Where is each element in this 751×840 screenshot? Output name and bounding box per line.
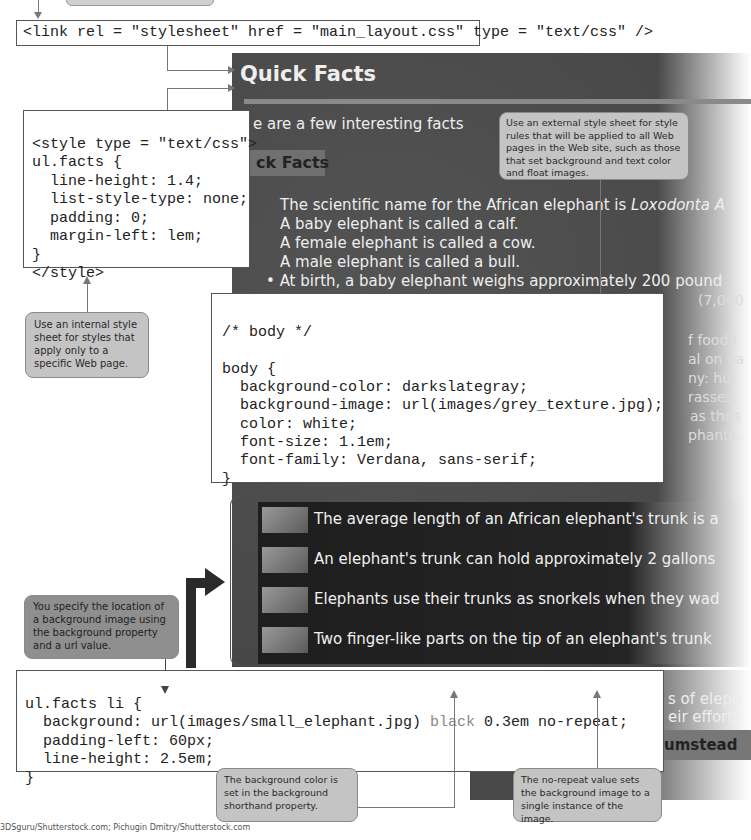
bold-arrow-head (205, 568, 225, 596)
arrow-head-down (34, 12, 42, 19)
partial-text: as thos (690, 408, 741, 424)
code-line: background: url(images/small_elephant.jp… (25, 714, 663, 733)
fact-item: Elephants use their trunks as snorkels w… (262, 586, 751, 614)
code-line: ul.facts li { (25, 696, 663, 715)
fact-text: Two finger-like parts on the tip of an e… (314, 630, 712, 648)
internal-style-code-box: <style type = "text/css">ul.facts { line… (23, 110, 250, 268)
connector-line (454, 695, 455, 807)
brace-icon (230, 497, 239, 665)
arrow-head-right (228, 84, 235, 92)
arrow-head-up (593, 690, 601, 698)
connector-line (167, 70, 233, 71)
bold-arrow-stem (186, 578, 196, 668)
code-line: padding-left: 60px; (25, 733, 663, 752)
link-code-box: <link rel = "stylesheet" href = "main_la… (16, 20, 480, 46)
code-line: <style type = "text/css"> (32, 136, 249, 155)
partial-text: eir efforts (668, 708, 741, 726)
partial-text: phants. (688, 427, 740, 443)
connector-line (597, 695, 598, 770)
code-segment-black: black (430, 714, 475, 731)
bullet-1: The scientific name for the African elep… (280, 196, 725, 214)
code-line: color: white; (222, 416, 663, 434)
code-segment: 0.3em no-repeat; (475, 714, 628, 731)
connector-line (167, 46, 168, 70)
connector-line (87, 280, 88, 312)
bullet-4: A male elephant is called a bull. (280, 253, 520, 271)
code-line: line-height: 2.5em; (25, 751, 663, 770)
body-css-code-box: /* body */​body { background-color: dark… (211, 293, 664, 483)
code-line: background-color: darkslategray; (222, 379, 663, 397)
code-line: body { (222, 361, 663, 379)
intro-text: e are a few interesting facts (253, 115, 463, 133)
fact-text: Elephants use their trunks as snorkels w… (314, 590, 720, 608)
fact-text: The average length of an African elephan… (314, 510, 719, 528)
partial-text: s of eleph (668, 690, 741, 708)
code-line: margin-left: lem; (32, 228, 249, 247)
arrow-head-up (83, 276, 91, 284)
li-css-code-box: ul.facts li { background: url(images/sma… (16, 670, 664, 772)
partial-text: umstead (664, 736, 737, 754)
elephant-icon (262, 547, 308, 573)
callout-background-location: You specify the location of a background… (24, 595, 179, 659)
partial-text: (7,000 (698, 292, 744, 308)
scientific-name: Loxodonta A (631, 196, 725, 214)
code-line-blank: ​ (222, 343, 663, 361)
elephant-icon (262, 627, 308, 653)
elephant-icon (262, 587, 308, 613)
elephant-icon (262, 507, 308, 533)
partial-text: al on ea (688, 351, 744, 367)
code-segment: background: url(images/small_elephant.jp… (25, 714, 430, 731)
callout-external-style-sheet: Use an external style sheet for style ru… (499, 112, 689, 180)
image-credit: 3DSguru/Shutterstock.com; Pichugin Dmitr… (0, 823, 250, 832)
top-callout-remnant (66, 0, 214, 6)
code-line: list-style-type: none; (32, 191, 249, 210)
fact-item: The average length of an African elephan… (262, 506, 751, 534)
page-title: Quick Facts (240, 62, 376, 86)
code-line: } (32, 247, 249, 266)
arrow-head-down (161, 686, 169, 694)
partial-text: rasses, (688, 389, 737, 405)
title-rule (244, 99, 751, 104)
code-line: font-size: 1.1em; (222, 434, 663, 452)
fact-item: An elephant's trunk can hold approximate… (262, 546, 751, 574)
bullet-text: At birth, a baby elephant weighs approxi… (280, 272, 723, 290)
arrow-head-up (450, 690, 458, 698)
bullet-2: A baby elephant is called a calf. (280, 215, 518, 233)
bullet-5: • At birth, a baby elephant weighs appro… (266, 272, 722, 290)
code-line: ul.facts { (32, 154, 249, 173)
code-line: /* body */ (222, 324, 663, 342)
fact-text: An elephant's trunk can hold approximate… (314, 550, 715, 568)
callout-internal-style-sheet: Use an internal style sheet for styles t… (25, 312, 149, 378)
bullet-3: A female elephant is called a cow. (280, 234, 536, 252)
code-line: font-family: Verdana, sans-serif; (222, 452, 663, 470)
fact-item: Two finger-like parts on the tip of an e… (262, 626, 751, 654)
code-line: background-image: url(images/grey_textur… (222, 397, 663, 415)
partial-text: f food i (688, 332, 737, 348)
partial-text: ny: hur (688, 370, 737, 386)
subheading: ck Facts (256, 153, 329, 172)
connector-line (167, 88, 168, 110)
code-line: </style> (32, 265, 249, 284)
bullet-text: The scientific name for the African elep… (280, 196, 631, 214)
arrow-head-right (228, 66, 235, 74)
callout-background-color: The background color is set in the backg… (216, 768, 358, 822)
callout-no-repeat: The no-repeat value sets the background … (513, 768, 662, 822)
code-line: padding: 0; (32, 210, 249, 229)
connector-line (357, 807, 455, 808)
connector-line (167, 88, 233, 89)
code-line: } (222, 471, 663, 489)
code-line: line-height: 1.4; (32, 173, 249, 192)
